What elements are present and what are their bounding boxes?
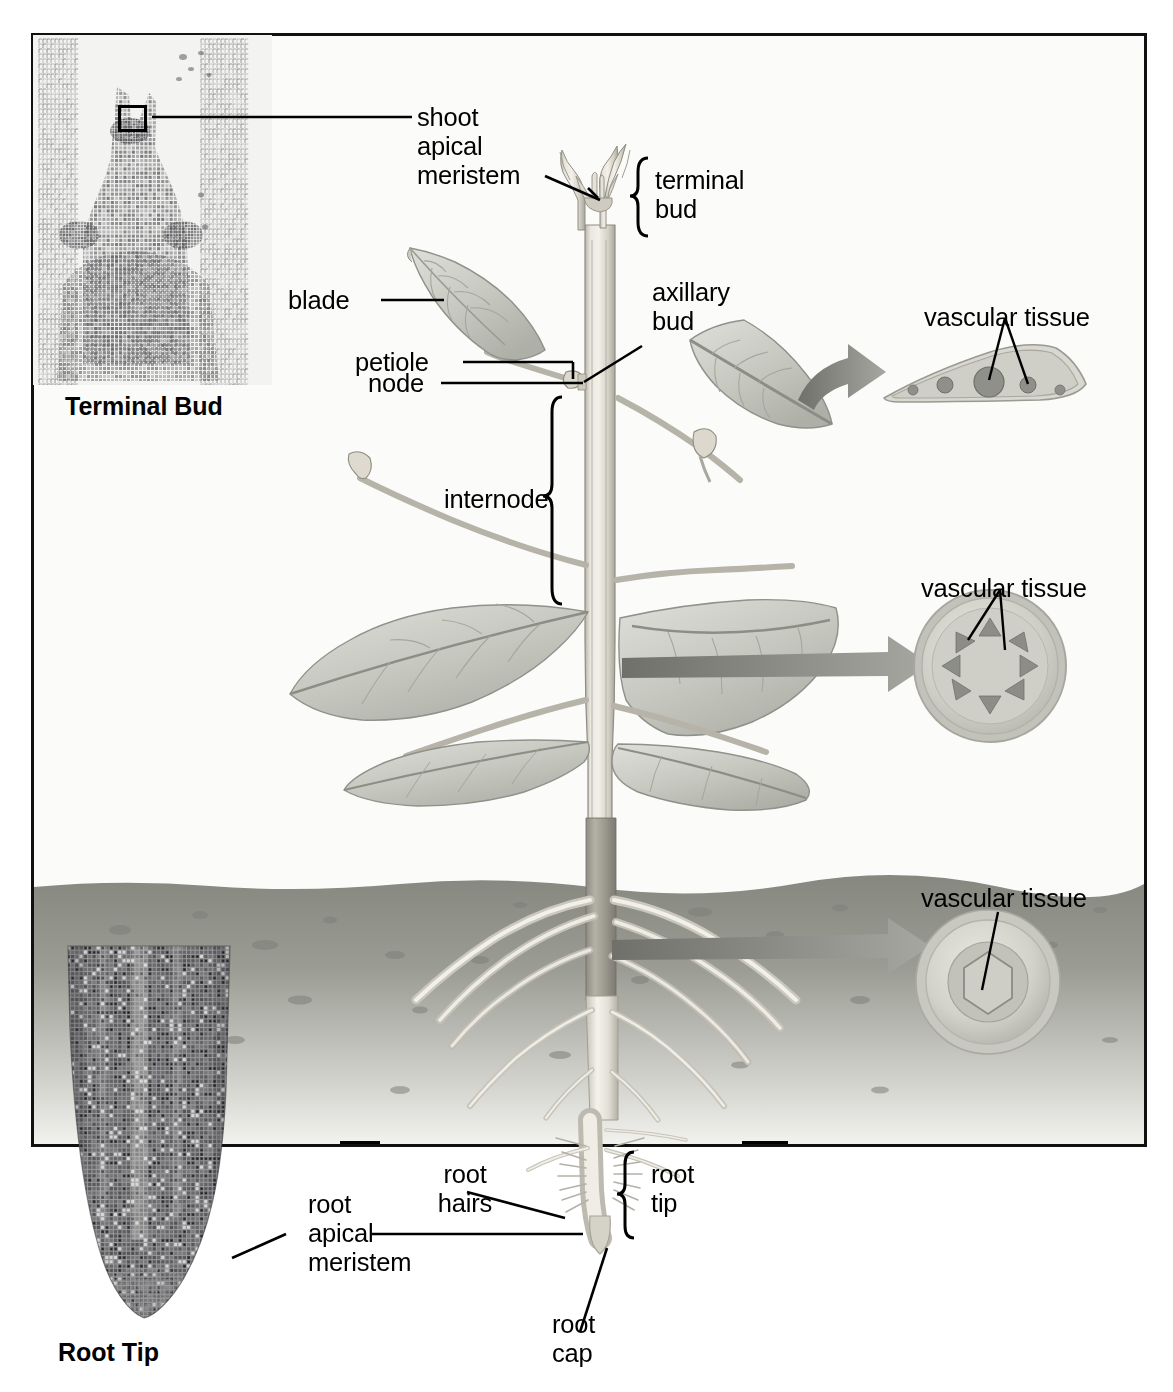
root-tip-micrograph [58,940,242,1322]
label-internode: internode [444,485,549,514]
label-terminal-bud: terminal bud [655,166,744,224]
root-tip-brace [617,1152,634,1238]
label-blade: blade [288,286,349,315]
label-root-cap: root cap [552,1310,595,1368]
root-cap-illustration [590,1216,611,1254]
label-vascular-tissue-leaf: vascular tissue [924,303,1090,332]
label-shoot-apical-meristem: shoot apical meristem [417,103,520,190]
figure-root: Terminal Bud Root Tip [0,0,1173,1392]
label-node: node [368,369,424,398]
terminal-bud-caption: Terminal Bud [65,392,223,421]
label-root-tip: root tip [651,1160,694,1218]
terminal-bud-micrograph [33,35,272,385]
label-vascular-tissue-root: vascular tissue [921,884,1087,913]
label-root-hairs: root hairs [410,1160,520,1218]
root-tip-caption: Root Tip [58,1338,159,1367]
label-vascular-tissue-stem: vascular tissue [921,574,1087,603]
label-root-apical-meristem: root apical meristem [308,1190,411,1277]
label-axillary-bud: axillary bud [652,278,730,336]
root-hairs-illustration [556,1138,644,1212]
shoot-apical-meristem-highlight-box [118,105,147,132]
